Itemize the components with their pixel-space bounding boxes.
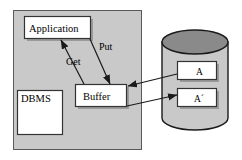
buffer-box-label: Buffer <box>83 92 110 103</box>
dbms-box-label: DBMS <box>21 94 51 105</box>
diagram-canvas: Application DBMS Buffer A A´ Get Put <box>0 0 242 160</box>
page-a-box-label: A <box>196 68 203 78</box>
application-box-label: Application <box>29 24 79 35</box>
cylinder-body <box>162 42 228 130</box>
get-arrow-label: Get <box>66 57 80 67</box>
cylinder-top <box>162 30 228 54</box>
page-a-prime-box-label: A´ <box>194 95 204 105</box>
put-arrow-label: Put <box>99 42 112 52</box>
